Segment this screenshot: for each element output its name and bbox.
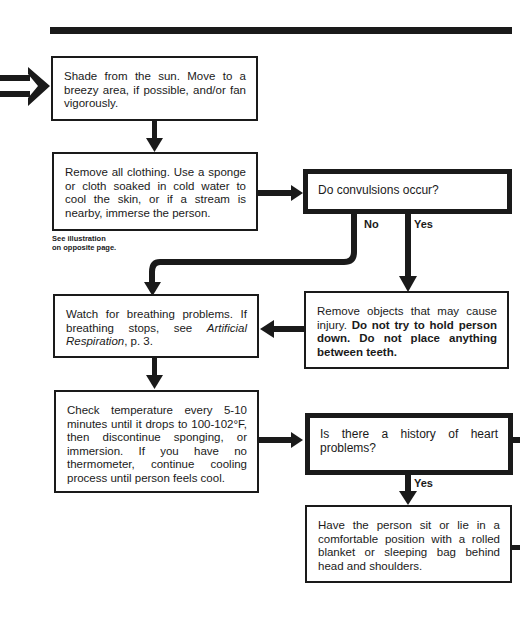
step-check-temperature-text: Check temperature every 5-10 minutes unt… <box>67 404 247 484</box>
step-shade-text: Shade from the sun. Move to a breezy are… <box>64 70 246 109</box>
step-sit-or-lie: Have the person sit or lie in a comforta… <box>305 505 512 583</box>
decision-heart-problems-text: Is there a history of heart problems? <box>320 427 498 455</box>
illustration-note: See illustration on opposite page. <box>52 234 116 252</box>
label-yes: Yes <box>414 218 433 230</box>
step-remove-clothing: Remove all clothing. Use a sponge or clo… <box>52 152 258 231</box>
label-heart-yes: Yes <box>414 477 433 489</box>
step-remove-clothing-text: Remove all clothing. Use a sponge or clo… <box>65 166 246 219</box>
step-watch-breathing: Watch for breathing problems. If breathi… <box>53 294 259 358</box>
step-sit-or-lie-text: Have the person sit or lie in a comforta… <box>318 519 500 572</box>
incoming-double-arrow-icon <box>0 67 50 106</box>
step-shade: Shade from the sun. Move to a breezy are… <box>51 56 258 121</box>
decision-heart-problems: Is there a history of heart problems? <box>305 413 513 475</box>
step-check-temperature: Check temperature every 5-10 minutes unt… <box>54 390 259 493</box>
illustration-note-line1: See illustration <box>52 234 116 243</box>
label-no: No <box>364 218 379 230</box>
decision-convulsions-text: Do convulsions occur? <box>318 183 439 197</box>
watch-breathing-suffix: , p. 3. <box>124 335 153 347</box>
step-watch-breathing-text: Watch for breathing problems. If breathi… <box>66 308 247 347</box>
step-remove-objects-text: Remove objects that may cause injury. Do… <box>317 305 497 358</box>
illustration-note-line2: on opposite page. <box>52 243 116 252</box>
decision-convulsions: Do convulsions occur? <box>303 169 512 214</box>
step-remove-objects: Remove objects that may cause injury. Do… <box>304 291 509 369</box>
